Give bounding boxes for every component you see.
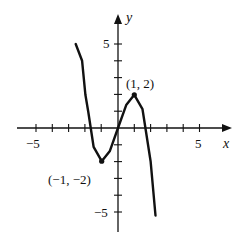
min-point xyxy=(99,159,104,164)
x-axis-label: x xyxy=(222,136,230,151)
max-point-label: (1, 2) xyxy=(126,76,154,91)
max-point xyxy=(132,92,137,97)
y-tick-label-neg5: −5 xyxy=(94,205,108,220)
x-tick-label-neg5: −5 xyxy=(26,136,40,151)
min-point-label: (−1, −2) xyxy=(48,172,91,187)
cubic-curve xyxy=(76,44,156,216)
y-tick-label-5: 5 xyxy=(103,36,110,51)
x-tick-label-5: 5 xyxy=(195,136,202,151)
cubic-graph: −5 5 5 −5 x y (1, 2) (−1, −2) xyxy=(0,0,239,246)
y-axis-arrow-icon xyxy=(114,14,122,24)
x-axis-arrow-icon xyxy=(222,124,232,132)
y-axis-label: y xyxy=(124,10,133,25)
